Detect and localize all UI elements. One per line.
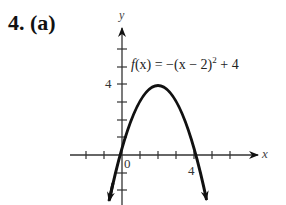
equation-label: f(x) = −(x − 2)2 + 4 — [131, 55, 239, 73]
x-axis-label: x — [262, 146, 268, 162]
eq-body: (x) = −(x − 2) — [135, 57, 212, 72]
graph — [0, 0, 286, 205]
parabola-curve — [109, 86, 206, 201]
eq-tail: + 4 — [217, 57, 239, 72]
origin-label: 0 — [124, 156, 131, 172]
x-tick-label-4: 4 — [188, 163, 195, 179]
y-axis-label: y — [119, 8, 124, 23]
y-tick-label-4: 4 — [105, 76, 112, 92]
